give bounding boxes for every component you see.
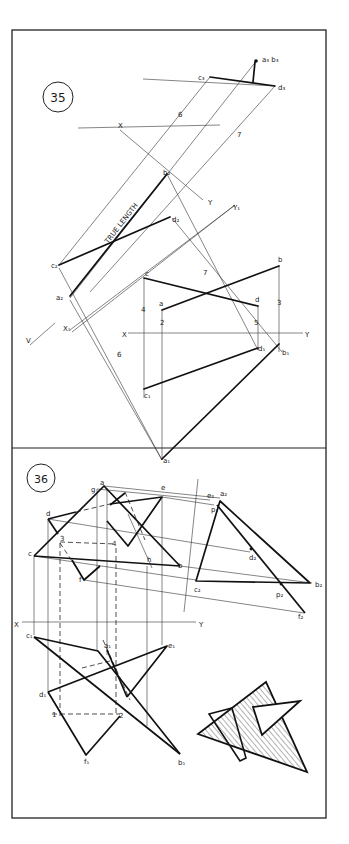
point-label: p₁ (211, 506, 218, 514)
point-label: c₂ (51, 262, 58, 270)
point-label: 2 (160, 319, 164, 327)
point-label: Y (304, 331, 310, 339)
point-label: e (161, 484, 165, 492)
point-label: d (46, 510, 50, 518)
point-label: X (14, 621, 19, 629)
point-label: g (91, 486, 95, 494)
outer-frame (12, 30, 326, 818)
problem-35-panel: 35 (26, 56, 310, 465)
point-label: 7 (203, 269, 207, 277)
point-label: b (178, 562, 183, 570)
point-label: 5 (254, 319, 258, 327)
point-label: d₃ (278, 84, 285, 92)
point-label: f₁ (84, 758, 89, 766)
point-label: h (147, 556, 151, 564)
point-label: d₂ (249, 554, 256, 562)
point-label: V (26, 337, 31, 345)
point-label: c₂ (194, 586, 201, 594)
point-label: 6 (117, 351, 122, 359)
point-label: 1 (52, 711, 56, 719)
point-label: b₁ (178, 759, 185, 767)
point-label: a₁ (163, 457, 170, 465)
point-label: d₁ (39, 691, 46, 699)
point-label: e₁ (168, 642, 175, 650)
point-label: p₂ (276, 591, 283, 599)
point-label: e₂ (207, 492, 214, 500)
point-label: 2 (119, 712, 123, 720)
point-label: a (159, 300, 163, 308)
point-label: Y (207, 199, 213, 207)
point-label: b₂ (315, 581, 322, 589)
hatched-triangle (198, 682, 307, 772)
problem-number: 36 (34, 473, 48, 486)
point-label: c (28, 550, 32, 558)
point-label: 4 (141, 306, 146, 314)
point-label: b₂ (163, 169, 170, 177)
point-label: 3 (60, 535, 64, 543)
construction-lines (59, 60, 303, 460)
point-label: X (118, 122, 123, 130)
point-label: Y (198, 621, 204, 629)
point-label: b (278, 256, 283, 264)
drawing-sheet: 35 (0, 0, 349, 844)
point-p2 (280, 583, 283, 586)
point-label: d (255, 296, 259, 304)
point-d2 (250, 548, 253, 551)
point-label: 3 (277, 299, 281, 307)
point-label: a₃ b₃ (262, 56, 279, 64)
problem-number: 35 (50, 91, 65, 105)
point-label: b₁ (282, 349, 289, 357)
point-label: a (100, 479, 104, 487)
point-label: d₁ (258, 345, 265, 353)
point-label: 6 (178, 111, 183, 119)
point-label: 7 (237, 131, 241, 139)
hidden-lines (52, 492, 145, 716)
point-label: d₂ (172, 216, 179, 224)
point-label: c₃ (198, 74, 205, 82)
point-a3b3 (254, 59, 258, 63)
point-label: X (122, 331, 127, 339)
point-label: a₂ (56, 294, 63, 302)
shaded-solution-figure (198, 682, 307, 772)
object-lines (59, 62, 279, 459)
point-label: c₁ (144, 392, 151, 400)
point-label: c (145, 270, 149, 278)
true-length-label: TRUE LENGTH (103, 202, 140, 246)
point-label: X₁ (63, 325, 71, 333)
point-label: c₁ (26, 632, 33, 640)
point-label: a₁ (104, 642, 111, 650)
point-label: Y₁ (232, 204, 240, 212)
point-label: 4 (112, 540, 117, 548)
point-label: f₂ (298, 613, 303, 621)
point-label: a₂ (220, 490, 227, 498)
problem-36-panel: 36 (14, 464, 322, 772)
